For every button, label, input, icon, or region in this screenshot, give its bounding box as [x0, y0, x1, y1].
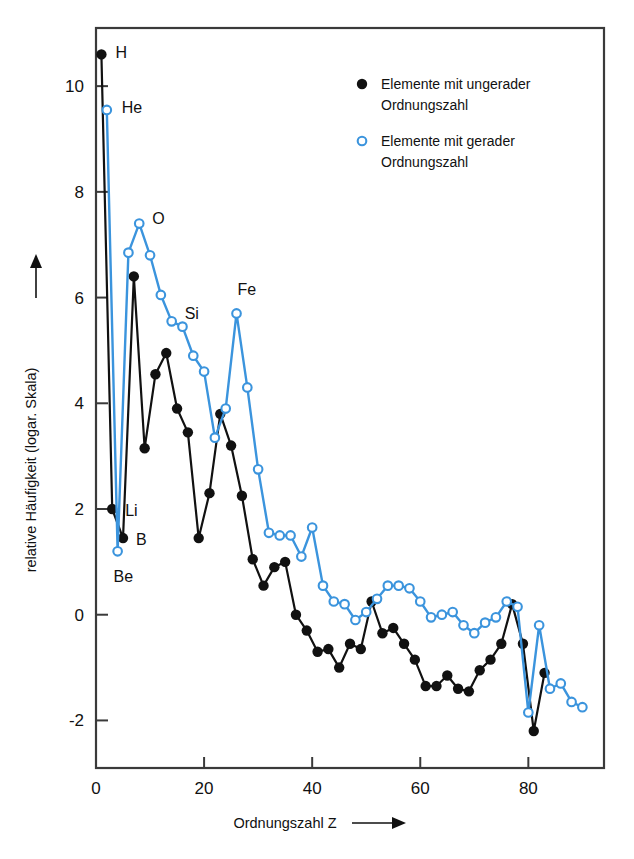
data-point-open — [167, 317, 176, 326]
data-point-filled — [161, 348, 171, 358]
y-tick-label: 6 — [75, 289, 84, 308]
element-label-Be: Be — [114, 568, 134, 585]
element-label-He: He — [122, 99, 143, 116]
data-point-filled — [420, 681, 430, 691]
data-point-filled — [442, 670, 452, 680]
data-point-filled — [323, 644, 333, 654]
data-point-open — [297, 552, 306, 561]
data-point-open — [578, 703, 587, 712]
data-point-filled — [388, 623, 398, 633]
data-point-filled — [280, 557, 290, 567]
data-point-filled — [431, 681, 441, 691]
data-point-filled — [377, 628, 387, 638]
data-point-filled — [302, 625, 312, 635]
data-point-filled — [291, 610, 301, 620]
y-axis-title: relative Häufigkeit (logar. Skala) — [23, 368, 39, 573]
data-point-open — [481, 618, 490, 627]
data-point-filled — [399, 639, 409, 649]
data-point-filled — [496, 639, 506, 649]
data-point-open — [189, 351, 198, 360]
data-point-filled — [410, 654, 420, 664]
data-point-open — [459, 621, 468, 630]
data-point-open — [524, 708, 533, 717]
data-point-open — [286, 531, 295, 540]
y-tick-label: 4 — [75, 394, 84, 413]
data-point-filled — [518, 639, 528, 649]
data-point-open — [438, 610, 447, 619]
data-point-filled — [464, 686, 474, 696]
data-point-filled — [258, 580, 268, 590]
data-point-open — [546, 684, 555, 693]
y-tick-label: 10 — [65, 77, 84, 96]
data-point-filled — [172, 403, 182, 413]
data-point-open — [373, 595, 382, 604]
data-point-open — [351, 616, 360, 625]
data-point-open — [200, 367, 209, 376]
data-point-open — [254, 465, 263, 474]
data-point-filled — [226, 440, 236, 450]
data-point-open — [135, 219, 144, 228]
data-point-filled — [150, 369, 160, 379]
abundance-chart: 020406080 1086420-2 HHeOSiFeLiBBe Elemen… — [0, 0, 634, 859]
element-label-H: H — [115, 44, 127, 61]
y-tick-label: 0 — [75, 606, 84, 625]
data-point-filled — [356, 644, 366, 654]
data-point-filled — [129, 271, 139, 281]
data-point-open — [221, 404, 230, 413]
data-point-open — [513, 602, 522, 611]
data-point-open — [211, 433, 220, 442]
data-point-open — [427, 613, 436, 622]
data-point-filled — [345, 639, 355, 649]
data-point-filled — [269, 562, 279, 572]
data-point-open — [416, 597, 425, 606]
legend-label-line2: Ordnungszahl — [381, 97, 468, 113]
data-point-filled — [453, 684, 463, 694]
y-tick-label: 8 — [75, 183, 84, 202]
data-point-open — [470, 629, 479, 638]
legend-marker-open — [358, 137, 367, 146]
data-point-open — [492, 613, 501, 622]
data-point-open — [405, 584, 414, 593]
data-point-open — [275, 531, 284, 540]
legend-label-line2: Ordnungszahl — [381, 154, 468, 170]
x-axis-title: Ordnungszahl Z — [233, 815, 336, 831]
data-point-open — [329, 597, 338, 606]
element-label-O: O — [152, 210, 164, 227]
x-tick-label: 80 — [519, 779, 538, 798]
x-tick-label: 0 — [91, 779, 100, 798]
data-point-open — [535, 621, 544, 630]
data-point-filled — [475, 665, 485, 675]
data-point-open — [394, 581, 403, 590]
x-tick-label: 40 — [303, 779, 322, 798]
data-point-filled — [183, 427, 193, 437]
data-point-open — [502, 597, 511, 606]
data-point-filled — [204, 488, 214, 498]
data-point-filled — [334, 662, 344, 672]
legend-label-line1: Elemente mit gerader — [381, 133, 515, 149]
data-point-open — [243, 383, 252, 392]
data-point-open — [448, 608, 457, 617]
legend-label-line1: Elemente mit ungerader — [381, 76, 531, 92]
chart-figure: 020406080 1086420-2 HHeOSiFeLiBBe Elemen… — [0, 0, 634, 859]
legend-marker-filled — [357, 79, 367, 89]
data-point-filled — [248, 554, 258, 564]
data-point-filled — [485, 654, 495, 664]
data-point-open — [157, 291, 166, 300]
data-point-filled — [96, 49, 106, 59]
data-point-open — [178, 322, 187, 331]
data-point-filled — [237, 491, 247, 501]
data-point-filled — [139, 443, 149, 453]
element-label-Si: Si — [185, 305, 199, 322]
element-label-B: B — [136, 531, 147, 548]
data-point-open — [113, 547, 122, 556]
y-tick-label: 2 — [75, 500, 84, 519]
data-point-open — [319, 581, 328, 590]
data-point-open — [340, 600, 349, 609]
data-point-open — [103, 106, 112, 115]
data-point-open — [146, 251, 155, 260]
x-tick-label: 20 — [195, 779, 214, 798]
data-point-open — [384, 581, 393, 590]
y-tick-label: -2 — [69, 711, 84, 730]
data-point-open — [567, 698, 576, 707]
data-point-open — [362, 608, 371, 617]
